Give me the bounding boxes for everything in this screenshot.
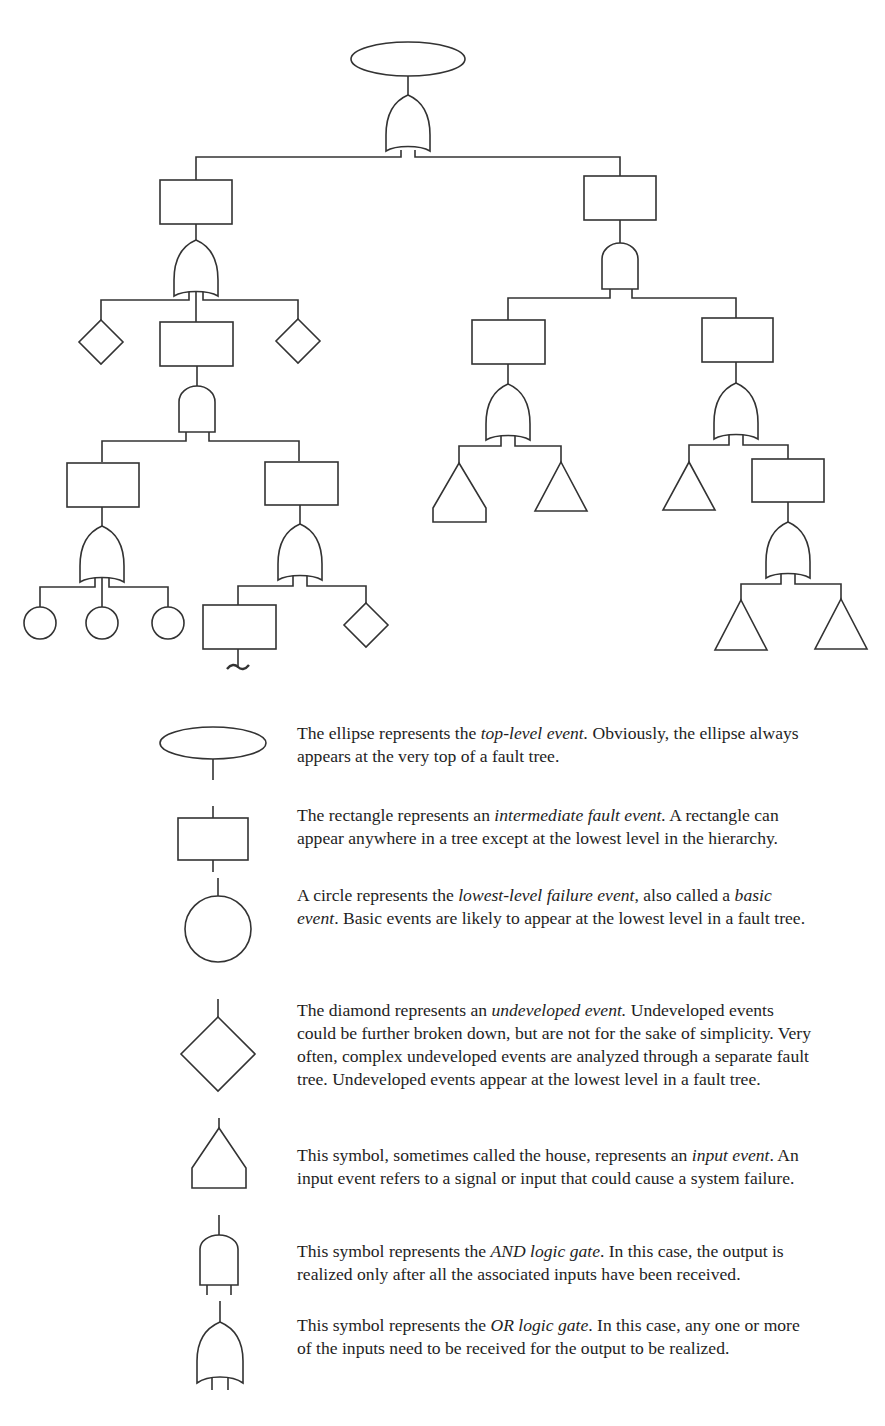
legend-text-rectangle: The rectangle represents an intermediate… xyxy=(297,804,817,850)
or-gate-icon xyxy=(278,524,322,580)
transfer-triangle xyxy=(815,599,867,649)
legend-text-ellipse: The ellipse represents the top-level eve… xyxy=(297,722,817,768)
intermediate-event-rect xyxy=(265,462,338,505)
basic-event-circle xyxy=(152,607,184,639)
ellipse-icon xyxy=(150,726,280,786)
legend-text-and-gate: This symbol represents the AND logic gat… xyxy=(297,1240,817,1286)
basic-event-circle xyxy=(86,607,118,639)
transfer-triangle xyxy=(715,600,767,650)
intermediate-event-rect xyxy=(752,459,824,502)
transfer-triangle xyxy=(535,462,587,511)
and-gate-icon xyxy=(179,386,215,432)
or-gate-icon xyxy=(150,1299,280,1409)
intermediate-event-rect xyxy=(160,322,233,366)
or-gate-icon xyxy=(174,240,218,296)
input-event-house xyxy=(433,463,486,522)
legend-text-diamond: The diamond represents an undeveloped ev… xyxy=(297,999,817,1091)
legend-text-house: This symbol, sometimes called the house,… xyxy=(297,1144,817,1190)
top-or-gate-icon xyxy=(386,95,430,151)
and-gate-icon xyxy=(602,243,638,289)
or-gate-icon xyxy=(486,384,530,440)
diamond-icon xyxy=(150,997,280,1107)
legend-item-and-gate: This symbol represents the AND logic gat… xyxy=(0,1240,885,1320)
legend-item-diamond: The diamond represents an undeveloped ev… xyxy=(0,999,885,1139)
and-gate-icon xyxy=(150,1213,280,1303)
house-icon xyxy=(150,1116,280,1216)
or-gate-icon xyxy=(766,522,810,578)
basic-event-circle xyxy=(24,607,56,639)
or-gate-icon xyxy=(80,526,124,582)
top-level-event-ellipse xyxy=(351,42,465,76)
intermediate-event-rect xyxy=(160,180,232,224)
intermediate-event-rect xyxy=(702,318,773,362)
legend-item-house: This symbol, sometimes called the house,… xyxy=(0,1144,885,1244)
intermediate-event-rect xyxy=(584,176,656,220)
legend-item-rectangle: The rectangle represents an intermediate… xyxy=(0,804,885,894)
fault-tree-diagram xyxy=(0,0,885,680)
circle-icon xyxy=(150,874,280,974)
intermediate-event-rect xyxy=(67,463,139,507)
transfer-triangle xyxy=(663,462,715,510)
legend-item-circle: A circle represents the lowest-level fai… xyxy=(0,884,885,974)
intermediate-event-rect xyxy=(472,320,545,364)
legend-text-or-gate: This symbol represents the OR logic gate… xyxy=(297,1314,817,1360)
undeveloped-event-diamond xyxy=(344,603,388,647)
legend-text-circle: A circle represents the lowest-level fai… xyxy=(297,884,817,930)
legend-item-or-gate: This symbol represents the OR logic gate… xyxy=(0,1314,885,1424)
continuation-tilde-icon xyxy=(227,665,249,669)
undeveloped-event-diamond xyxy=(79,320,123,364)
or-gate-icon xyxy=(714,383,758,439)
intermediate-event-rect xyxy=(203,605,276,649)
undeveloped-event-diamond xyxy=(276,319,320,363)
